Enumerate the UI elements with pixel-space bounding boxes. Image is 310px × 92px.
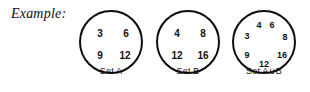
set-circle-2: 4 6 3 8 9 16 12 [232, 10, 296, 74]
set-element: 9 [244, 51, 249, 60]
set-circle-group-2: 4 6 3 8 9 16 12 [232, 10, 296, 74]
set-circle-0: 3 6 9 12 [79, 10, 143, 74]
set-element: 9 [97, 51, 103, 61]
set-circle-1: 4 8 12 16 [156, 10, 220, 74]
set-element: 3 [97, 29, 103, 39]
set-element: 16 [277, 51, 287, 60]
set-circle-group-1: 4 8 12 16 [156, 10, 220, 74]
set-element: 12 [171, 51, 182, 61]
set-element: 8 [282, 33, 287, 42]
set-element: 6 [123, 29, 129, 39]
set-circle-group-0: 3 6 9 12 [79, 10, 143, 74]
set-label-1: Set B [156, 66, 220, 76]
set-element: 4 [174, 29, 180, 39]
set-element: 12 [119, 51, 130, 61]
set-label-2: Set A∪B [232, 66, 296, 76]
set-element: 4 [256, 21, 261, 30]
set-label-0: Set A [79, 66, 143, 76]
set-element: 6 [269, 21, 274, 30]
set-element: 16 [197, 51, 208, 61]
example-label: Example: [11, 6, 66, 22]
set-element: 3 [244, 32, 249, 41]
set-union-diagram: Example: 3 6 9 12 4 8 12 16 4 6 3 8 9 16… [0, 0, 310, 92]
set-element: 8 [200, 29, 206, 39]
